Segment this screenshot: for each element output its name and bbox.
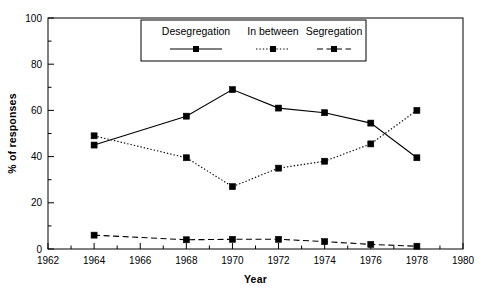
x-axis-tick-label: 1972 bbox=[267, 255, 290, 266]
data-point-marker bbox=[183, 113, 189, 119]
data-point-marker bbox=[368, 141, 374, 147]
x-axis-tick-label: 1966 bbox=[129, 255, 152, 266]
data-point-marker bbox=[276, 105, 282, 111]
data-point-marker bbox=[91, 133, 97, 139]
data-point-marker bbox=[276, 236, 282, 242]
y-axis-tick-label: 0 bbox=[36, 244, 42, 255]
data-point-marker bbox=[414, 155, 420, 161]
y-axis-tick-label: 20 bbox=[31, 197, 43, 208]
x-axis-tick-label: 1962 bbox=[37, 255, 60, 266]
data-point-marker bbox=[183, 237, 189, 243]
data-point-marker bbox=[183, 155, 189, 161]
legend-label-segregation: Segregation bbox=[306, 25, 363, 37]
x-axis-tick-label: 1970 bbox=[221, 255, 244, 266]
x-axis-tick-label: 1980 bbox=[452, 255, 475, 266]
data-point-marker bbox=[322, 239, 328, 245]
legend-marker bbox=[331, 46, 337, 52]
x-axis-tick-label: 1974 bbox=[314, 255, 337, 266]
y-axis-tick-label: 80 bbox=[31, 59, 43, 70]
line-chart: 0204060801001962196419661968197019721974… bbox=[0, 0, 481, 289]
legend-marker bbox=[270, 46, 276, 52]
y-axis-title: % of responses bbox=[6, 93, 18, 173]
data-point-marker bbox=[229, 236, 235, 242]
y-axis-tick-label: 40 bbox=[31, 151, 43, 162]
data-point-marker bbox=[414, 107, 420, 113]
y-axis-tick-label: 100 bbox=[25, 13, 42, 24]
legend-label-desegregation: Desegregation bbox=[162, 25, 230, 37]
x-axis-tick-label: 1968 bbox=[175, 255, 198, 266]
x-axis-tick-label: 1976 bbox=[360, 255, 383, 266]
legend-marker bbox=[193, 46, 199, 52]
data-point-marker bbox=[91, 142, 97, 148]
data-point-marker bbox=[91, 232, 97, 238]
data-point-marker bbox=[414, 243, 420, 249]
data-point-marker bbox=[322, 158, 328, 164]
data-point-marker bbox=[276, 165, 282, 171]
x-axis-tick-label: 1964 bbox=[83, 255, 106, 266]
data-point-marker bbox=[368, 120, 374, 126]
x-axis-tick-label: 1978 bbox=[406, 255, 429, 266]
data-point-marker bbox=[368, 241, 374, 247]
data-point-marker bbox=[229, 184, 235, 190]
data-point-marker bbox=[322, 110, 328, 116]
legend-label-in-between: In between bbox=[247, 25, 299, 37]
x-axis-title: Year bbox=[244, 273, 267, 285]
data-point-marker bbox=[229, 87, 235, 93]
y-axis-tick-label: 60 bbox=[31, 105, 43, 116]
chart-container: 0204060801001962196419661968197019721974… bbox=[0, 0, 481, 289]
